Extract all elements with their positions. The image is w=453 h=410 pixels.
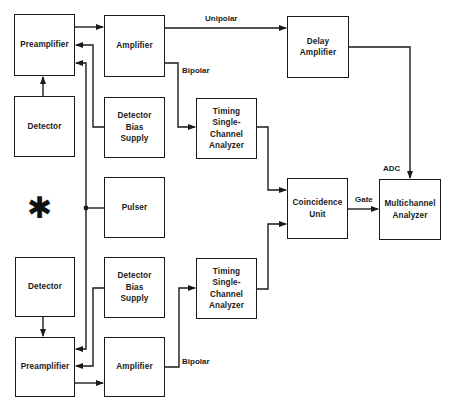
- block-diagram: Preamplifier Detector Amplifier Detector…: [0, 0, 453, 410]
- adc-label: ADC: [383, 164, 400, 173]
- timing-sca-top-box: Timing Single- Channel Analyzer: [196, 98, 257, 159]
- amplifier-bottom-label: Amplifier: [116, 361, 152, 373]
- preamplifier-top-label: Preamplifier: [20, 39, 69, 51]
- timing-sca-bottom-label: Timing Single- Channel Analyzer: [209, 266, 244, 312]
- amplifier-bottom-box: Amplifier: [104, 337, 165, 397]
- pulser-box: Pulser: [104, 177, 165, 238]
- detector-bias-supply-bottom-box: Detector Bias Supply: [104, 257, 165, 318]
- detector-bottom-label: Detector: [28, 281, 62, 293]
- preamplifier-bottom-box: Preamplifier: [15, 337, 75, 397]
- coincidence-unit-box: Coincidence Unit: [287, 178, 348, 239]
- amplifier-top-label: Amplifier: [116, 40, 152, 52]
- multichannel-analyzer-box: Multichannel Analyzer: [379, 179, 441, 240]
- coincidence-unit-label: Coincidence Unit: [293, 197, 343, 220]
- unipolar-label: Unipolar: [205, 14, 237, 23]
- bipolar-top-label: Bipolar: [182, 66, 210, 75]
- timing-sca-bottom-box: Timing Single- Channel Analyzer: [196, 258, 257, 319]
- gate-label: Gate: [355, 195, 373, 204]
- radiation-source-icon: ✱: [27, 193, 52, 223]
- junction-dot: [84, 206, 89, 211]
- preamplifier-top-box: Preamplifier: [14, 14, 75, 76]
- detector-bias-supply-bottom-label: Detector Bias Supply: [117, 270, 151, 305]
- preamplifier-bottom-label: Preamplifier: [21, 361, 70, 373]
- timing-sca-top-label: Timing Single- Channel Analyzer: [209, 106, 244, 152]
- pulser-label: Pulser: [122, 202, 148, 214]
- detector-bias-supply-top-label: Detector Bias Supply: [117, 110, 151, 145]
- amplifier-top-box: Amplifier: [104, 15, 165, 77]
- detector-top-box: Detector: [14, 96, 75, 157]
- multichannel-analyzer-label: Multichannel Analyzer: [384, 198, 435, 221]
- delay-amplifier-label: Delay Amplifier: [300, 36, 336, 59]
- bipolar-bottom-label: Bipolar: [182, 357, 210, 366]
- delay-amplifier-box: Delay Amplifier: [287, 16, 349, 78]
- detector-bottom-box: Detector: [15, 257, 75, 317]
- detector-bias-supply-top-box: Detector Bias Supply: [104, 97, 165, 158]
- detector-top-label: Detector: [27, 121, 61, 133]
